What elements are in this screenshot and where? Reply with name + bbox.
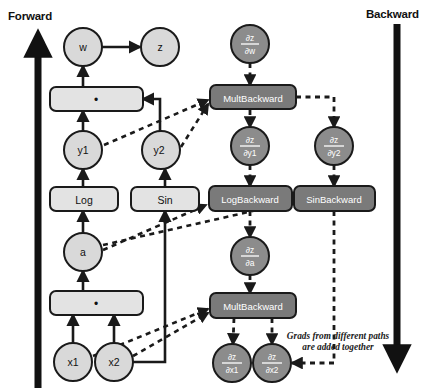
node-sinbackward[interactable]: SinBackward [294, 186, 375, 211]
node-multbackward-bottom-label: MultBackward [223, 301, 283, 312]
node-grad-dz-dw-denominator: ∂w [245, 46, 256, 56]
node-w[interactable]: w [64, 28, 102, 66]
diagram-canvas: w z • y1 y2 Log [0, 0, 433, 388]
node-x1-label: x1 [67, 356, 78, 368]
node-multbackward-bottom[interactable]: MultBackward [210, 293, 296, 318]
node-grad-dz-da[interactable]: ∂z ∂a [231, 237, 269, 275]
node-logbackward-label: LogBackward [221, 194, 279, 205]
node-z[interactable]: z [141, 28, 179, 66]
node-logbackward[interactable]: LogBackward [209, 186, 292, 211]
node-grad-dz-dw[interactable]: ∂z ∂w [231, 25, 269, 63]
node-grad-dz-dy1[interactable]: ∂z ∂y1 [231, 127, 269, 165]
node-grad-dz-dw-numerator: ∂z [246, 33, 254, 43]
node-a[interactable]: a [64, 233, 102, 271]
node-grad-dz-dx2[interactable]: ∂z ∂x2 [253, 344, 291, 382]
node-log-label: Log [75, 194, 93, 206]
node-grad-dz-da-denominator: ∂a [246, 258, 255, 268]
node-grad-dz-dx1[interactable]: ∂z ∂x1 [213, 344, 251, 382]
node-sin[interactable]: Sin [131, 187, 199, 211]
node-mult-top[interactable]: • [50, 87, 143, 111]
node-grad-dz-dy2-numerator: ∂z [330, 135, 338, 145]
edge-multbackward-to-dzdy2 [296, 97, 334, 127]
node-sin-label: Sin [157, 194, 172, 206]
edge-sinbackward-to-dzdx2 [292, 211, 334, 363]
node-multbackward-top-label: MultBackward [223, 93, 283, 104]
node-grad-dz-dx2-numerator: ∂z [268, 353, 276, 362]
edge-y2-to-multtop [143, 99, 160, 131]
node-z-label: z [157, 41, 162, 53]
edge-multbackward-to-dzdx1 [233, 318, 234, 344]
node-multbackward-top[interactable]: MultBackward [210, 85, 296, 109]
node-grad-dz-dy1-denominator: ∂y1 [243, 148, 256, 158]
node-log[interactable]: Log [50, 187, 118, 211]
node-grad-dz-dy2[interactable]: ∂z ∂y2 [315, 127, 353, 165]
node-mult-top-label: • [94, 93, 98, 107]
node-sinbackward-label: SinBackward [306, 194, 361, 205]
node-grad-dz-dx1-denominator: ∂x1 [226, 366, 239, 375]
node-grad-dz-dx1-numerator: ∂z [228, 353, 236, 362]
link-x2-to-multbackward-bottom [133, 313, 208, 356]
autograd-diagram: Forward Backward Grads from different pa… [0, 0, 433, 388]
node-x2-label: x2 [108, 356, 119, 368]
node-mult-bottom-label: • [94, 297, 98, 311]
node-y2-label: y2 [153, 144, 164, 156]
node-a-label: a [80, 246, 86, 258]
node-x2[interactable]: x2 [95, 343, 133, 381]
node-grad-dz-dy2-denominator: ∂y2 [327, 148, 340, 158]
node-w-label: w [78, 41, 87, 53]
node-x1[interactable]: x1 [54, 343, 92, 381]
node-y1[interactable]: y1 [64, 131, 102, 169]
node-mult-bottom[interactable]: • [50, 291, 143, 315]
node-grad-dz-da-numerator: ∂z [246, 245, 254, 255]
node-grad-dz-dx2-denominator: ∂x2 [266, 366, 279, 375]
node-y1-label: y1 [77, 144, 88, 156]
node-y2[interactable]: y2 [142, 131, 180, 169]
node-grad-dz-dy1-numerator: ∂z [246, 135, 254, 145]
